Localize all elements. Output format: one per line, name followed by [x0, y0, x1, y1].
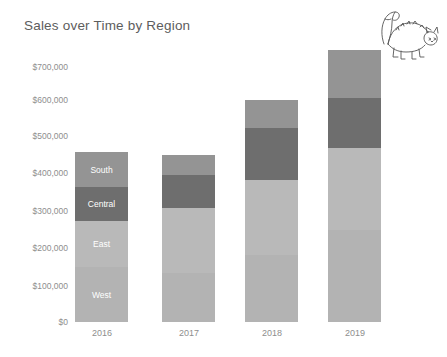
bar-segment-west[interactable] — [328, 230, 381, 322]
bar-segment-east[interactable]: East — [75, 221, 128, 267]
y-axis-tick: $600,000 — [0, 95, 68, 105]
y-axis-tick: $300,000 — [0, 206, 68, 216]
bar-segment-west[interactable] — [162, 273, 215, 322]
cat-doodle-icon — [374, 6, 444, 62]
y-axis-tick: $700,000 — [0, 62, 68, 72]
bar-segment-central[interactable] — [162, 175, 215, 208]
bar-segment-label: South — [75, 165, 128, 175]
x-axis-tick-2017: 2017 — [162, 328, 216, 338]
bar-segment-south[interactable] — [162, 155, 215, 175]
bar-segment-south[interactable]: South — [75, 152, 128, 187]
bar-segment-central[interactable]: Central — [75, 187, 128, 221]
x-axis-tick-2018: 2018 — [245, 328, 299, 338]
y-axis-tick: $400,000 — [0, 168, 68, 178]
x-axis-tick-2019: 2019 — [328, 328, 382, 338]
bar-segment-south[interactable] — [245, 100, 298, 128]
x-axis-tick-2016: 2016 — [75, 328, 129, 338]
bar-segment-east[interactable] — [328, 148, 381, 230]
bar-segment-label: East — [75, 239, 128, 249]
y-axis-tick: $500,000 — [0, 131, 68, 141]
bar-segment-central[interactable] — [328, 98, 381, 148]
chart-container: Sales over Time by Region $700,000 $600,… — [0, 0, 447, 357]
y-axis-tick: $200,000 — [0, 243, 68, 253]
bar-segment-east[interactable] — [245, 180, 298, 255]
bar-segment-east[interactable] — [162, 208, 215, 273]
y-axis-tick: $100,000 — [0, 281, 68, 291]
bar-segment-west[interactable]: West — [75, 267, 128, 322]
bar-segment-label: West — [75, 290, 128, 300]
bar-segment-central[interactable] — [245, 128, 298, 180]
bar-segment-west[interactable] — [245, 255, 298, 322]
bar-segment-label: Central — [75, 199, 128, 209]
y-axis-tick: $0 — [0, 317, 68, 327]
